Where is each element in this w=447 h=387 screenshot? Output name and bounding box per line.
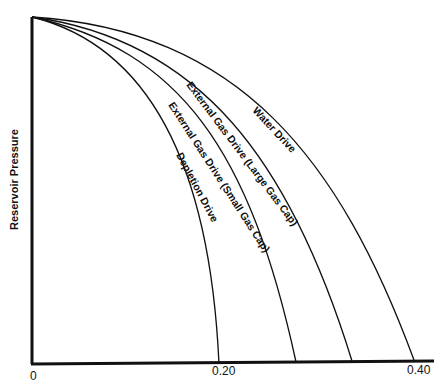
- x-tick-040: 0.40: [407, 363, 431, 377]
- chart: 0 0.20 0.40 Reservoir Pressure Depletion…: [0, 0, 447, 387]
- label-water-drive: Water Drive: [251, 104, 299, 155]
- y-axis-label: Reservoir Pressure: [8, 129, 20, 230]
- x-tick-020: 0.20: [212, 364, 236, 378]
- curve-depletion-drive: [32, 17, 219, 364]
- x-tick-0: 0: [30, 369, 37, 383]
- curve-small-gas-cap: [32, 17, 296, 362]
